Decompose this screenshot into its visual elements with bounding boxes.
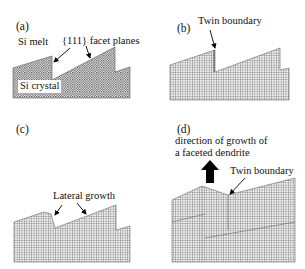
panel-b-crystal: [170, 48, 289, 100]
panel-d-growth-arrow: [201, 160, 219, 183]
panel-b-label: (b): [177, 23, 190, 35]
facet-planes-label: {111} facet planes: [62, 36, 140, 47]
si-crystal-label: Si crystal: [18, 80, 61, 93]
panel-b-arrow: [210, 30, 215, 48]
growth-direction-label-line2: a faceted dendrite: [175, 148, 250, 159]
panel-a-arrows: [54, 46, 90, 62]
panel-c-arrows: [55, 203, 86, 215]
panel-c-label: (c): [16, 124, 29, 136]
growth-direction-label-line1: direction of growth of: [175, 136, 267, 147]
panel-d-label: (d): [177, 124, 190, 136]
panel-c-crystal: [14, 205, 130, 262]
twin-boundary-label-d: Twin boundary: [230, 166, 294, 177]
si-melt-label: Si melt: [18, 37, 48, 48]
twin-boundary-label-b: Twin boundary: [198, 16, 262, 27]
lateral-growth-label: Lateral growth: [53, 191, 115, 202]
panel-a-label: (a): [16, 21, 29, 33]
